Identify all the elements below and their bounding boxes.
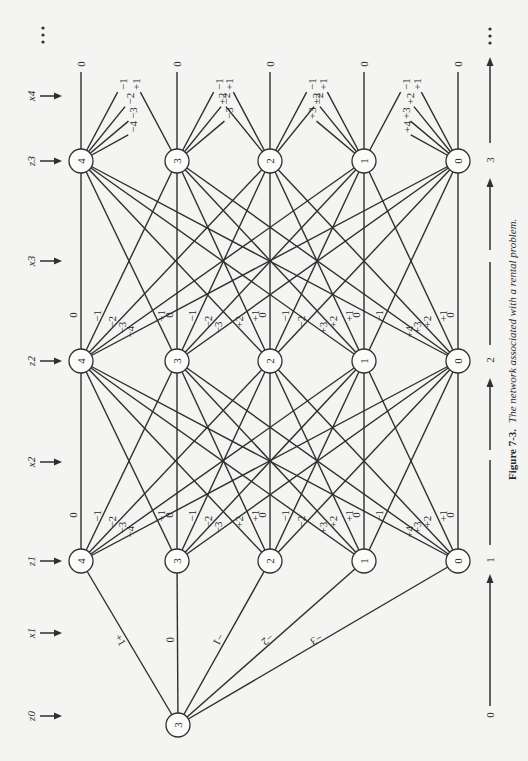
- node-z2-state-0: 0: [446, 349, 470, 373]
- node-value: 2: [264, 558, 276, 564]
- edge-weight-label: 0: [256, 512, 268, 518]
- edge-weight-label: −4: [124, 526, 136, 538]
- node-value: 4: [75, 158, 87, 164]
- node-z2-state-2: 2: [258, 349, 282, 373]
- stub-weight-label: −1: [117, 78, 129, 90]
- edge-weight-label: −2: [295, 316, 307, 328]
- edge-weight-label: 0: [163, 512, 175, 518]
- edge-weight-label: −1: [186, 510, 198, 522]
- stage-label-z3: z3: [25, 156, 37, 167]
- edge-weight-label: +2: [421, 516, 433, 528]
- edge-weight-label: −1: [186, 310, 198, 322]
- caption-number: Figure 7-3.: [506, 429, 518, 480]
- node-z3-state-3: 3: [165, 149, 189, 173]
- node-z1-state-1: 1: [352, 549, 376, 573]
- node-z1-state-0: 0: [446, 549, 470, 573]
- stub-weight-label: −4: [127, 120, 139, 132]
- edge-weight-label: 0: [444, 512, 456, 518]
- edge-weight-label: −1: [279, 510, 291, 522]
- figure-caption: Figure 7-3.The network associated with a…: [506, 219, 518, 480]
- arrowhead-icon: [487, 574, 494, 583]
- stage-label-z0: z0: [25, 711, 37, 722]
- edge-z0-to-z1: [81, 561, 178, 725]
- network-diagram: +10−1−2−30−1−2−3−4+10−1−2−3+2+10−1−2+3+2…: [0, 0, 528, 761]
- edge-weight-label: +1: [112, 632, 128, 648]
- node-value: 3: [172, 722, 184, 728]
- edge-z0-to-z1: [177, 561, 178, 725]
- arrowhead-icon: [54, 258, 62, 265]
- time-tick-1: 1: [484, 557, 496, 563]
- edge-weight-label: +2: [233, 316, 245, 328]
- arrowhead-icon: [54, 713, 62, 720]
- ellipsis-dot-icon: [41, 26, 44, 29]
- edge-weight-label: −1: [373, 310, 385, 322]
- stub-weight-label: +4: [401, 120, 413, 132]
- node-z1-state-3: 3: [165, 549, 189, 573]
- edge-weight-label: +2: [327, 516, 339, 528]
- stage-label-z2: z2: [25, 356, 37, 367]
- arrowhead-icon: [487, 378, 494, 387]
- arrowhead-icon: [54, 630, 62, 637]
- caption-description: The network associated with a rental pro…: [506, 219, 518, 423]
- arrowhead-icon: [54, 158, 62, 165]
- node-z3-state-2: 2: [258, 149, 282, 173]
- arrowhead-icon: [54, 459, 62, 466]
- edge-weight-label: −1: [279, 310, 291, 322]
- edge-weight-label: −1: [91, 510, 103, 522]
- stub-weight-label: +2: [216, 93, 228, 105]
- edge-weight-label: −4: [124, 326, 136, 338]
- edge-weight-label: −3: [308, 632, 325, 649]
- edge-weight-label: 0: [350, 312, 362, 318]
- rental-network-figure: +10−1−2−30−1−2−3−4+10−1−2−3+2+10−1−2+3+2…: [0, 0, 528, 761]
- time-tick-0: 0: [484, 712, 496, 718]
- stage-label-x2: x2: [25, 456, 37, 468]
- node-value: 1: [358, 158, 370, 164]
- arrowhead-icon: [54, 358, 62, 365]
- stub-weight-label: 0: [358, 61, 370, 67]
- stage-label-z1: z1: [25, 556, 37, 567]
- node-value: 0: [452, 358, 464, 364]
- edge-weight-label: 0: [164, 637, 176, 643]
- node-value: 3: [171, 158, 183, 164]
- arrowhead-icon: [487, 178, 494, 187]
- node-z1-state-4: 4: [69, 549, 93, 573]
- arrowhead-icon: [487, 57, 494, 66]
- node-z2-state-1: 1: [352, 349, 376, 373]
- caption-text: Figure 7-3.The network associated with a…: [506, 219, 518, 480]
- arrowhead-icon: [54, 558, 62, 565]
- ellipsis-dot-icon: [41, 33, 44, 36]
- stage-label-x3: x3: [25, 255, 37, 267]
- stub-weight-label: +1: [130, 78, 142, 90]
- stub-weight-label: 0: [452, 61, 464, 67]
- node-value: 2: [264, 358, 276, 364]
- ellipsis-dot-icon: [488, 34, 491, 37]
- stub-weight-label: +1: [317, 78, 329, 90]
- node-z0-initial: 3: [166, 713, 190, 737]
- stub-weight-label: 0: [75, 61, 87, 67]
- node-z3-state-4: 4: [69, 149, 93, 173]
- stub-weight-label: 0: [264, 61, 276, 67]
- stub-weight-label: −2: [124, 93, 136, 105]
- edge-weight-label: −1: [91, 310, 103, 322]
- edge-weight-label: 0: [163, 312, 175, 318]
- edge-weight-label: +2: [327, 316, 339, 328]
- stage-label-x4: x4: [25, 90, 37, 102]
- ellipsis-dot-icon: [41, 40, 44, 43]
- node-value: 3: [171, 358, 183, 364]
- edge-weight-label: 0: [67, 312, 79, 318]
- node-z1-state-2: 2: [258, 549, 282, 573]
- node-z3-state-1: 1: [352, 149, 376, 173]
- stub-weight-label: −1: [400, 78, 412, 90]
- node-z2-state-3: 3: [165, 349, 189, 373]
- node-value: 4: [75, 558, 87, 564]
- node-value: 0: [452, 158, 464, 164]
- edge-weight-label: 0: [350, 512, 362, 518]
- node-z3-state-0: 0: [446, 149, 470, 173]
- edge-weight-label: 0: [67, 512, 79, 518]
- edge-weight-label: 0: [256, 312, 268, 318]
- ellipsis-dot-icon: [488, 27, 491, 30]
- stub-weight-label: +2: [404, 93, 416, 105]
- stage-label-x1: x1: [25, 628, 37, 639]
- node-value: 1: [358, 558, 370, 564]
- stub-weight-label: 0: [171, 61, 183, 67]
